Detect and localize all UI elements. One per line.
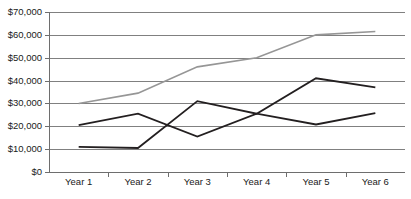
y-tick-label: $60,000 <box>8 29 42 40</box>
x-axis-tick-labels: Year 1Year 2Year 3Year 4Year 5Year 6 <box>65 176 389 187</box>
y-tick-label: $0 <box>31 166 42 177</box>
y-tick-label: $40,000 <box>8 75 42 86</box>
x-tick-label: Year 5 <box>302 176 329 187</box>
gridlines <box>45 13 405 173</box>
y-tick-label: $20,000 <box>8 120 42 131</box>
y-tick-label: $70,000 <box>8 6 42 17</box>
x-tick-label: Year 1 <box>65 176 92 187</box>
series-gray <box>79 31 376 103</box>
data-series <box>79 31 376 148</box>
x-tick-label: Year 4 <box>243 176 270 187</box>
series-black-b <box>79 78 376 148</box>
y-tick-label: $50,000 <box>8 52 42 63</box>
y-tick-label: $10,000 <box>8 143 42 154</box>
chart-canvas: $0$10,000$20,000$30,000$40,000$50,000$60… <box>0 0 411 199</box>
x-tick-label: Year 2 <box>124 176 151 187</box>
line-chart: $0$10,000$20,000$30,000$40,000$50,000$60… <box>0 0 411 199</box>
y-tick-label: $30,000 <box>8 97 42 108</box>
axis-lines <box>49 12 405 173</box>
y-axis-tick-labels: $0$10,000$20,000$30,000$40,000$50,000$60… <box>8 6 42 177</box>
series-black-a <box>79 113 376 137</box>
x-tick-label: Year 3 <box>184 176 211 187</box>
x-tick-label: Year 6 <box>362 176 389 187</box>
